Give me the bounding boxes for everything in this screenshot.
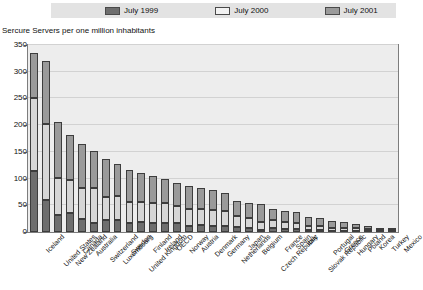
bar-segment[interactable] <box>197 209 205 225</box>
bar-segment[interactable] <box>269 209 277 221</box>
bar-segment[interactable] <box>173 183 181 207</box>
bar-segment[interactable] <box>233 227 241 232</box>
bar-segment[interactable] <box>293 229 301 232</box>
bar-segment[interactable] <box>388 228 396 230</box>
bar-segment[interactable] <box>328 221 336 227</box>
bar-segment[interactable] <box>102 197 110 219</box>
bar-segment[interactable] <box>42 61 50 124</box>
bar-group[interactable] <box>173 45 181 232</box>
bar-segment[interactable] <box>149 176 157 203</box>
bar-segment[interactable] <box>233 216 241 227</box>
bar-group[interactable] <box>149 45 157 232</box>
bar-segment[interactable] <box>149 223 157 232</box>
bar-segment[interactable] <box>102 159 110 197</box>
bar-group[interactable] <box>269 45 277 232</box>
bar-segment[interactable] <box>281 211 289 223</box>
bar-segment[interactable] <box>305 226 313 231</box>
bar-segment[interactable] <box>257 222 265 229</box>
bar-group[interactable] <box>316 45 324 232</box>
bar-segment[interactable] <box>305 217 313 226</box>
bar-segment[interactable] <box>281 229 289 232</box>
bar-group[interactable] <box>388 45 396 232</box>
bar-group[interactable] <box>42 45 50 232</box>
bar-segment[interactable] <box>245 203 253 218</box>
bar-group[interactable] <box>66 45 74 232</box>
bar-group[interactable] <box>197 45 205 232</box>
bar-segment[interactable] <box>245 228 253 232</box>
bar-segment[interactable] <box>257 204 265 222</box>
bar-segment[interactable] <box>66 213 74 232</box>
bar-segment[interactable] <box>233 201 241 216</box>
bar-segment[interactable] <box>114 220 122 232</box>
bar-segment[interactable] <box>209 226 217 232</box>
bar-segment[interactable] <box>352 228 360 231</box>
bar-segment[interactable] <box>30 53 38 98</box>
bar-segment[interactable] <box>54 178 62 215</box>
bar-segment[interactable] <box>126 202 134 223</box>
bar-segment[interactable] <box>54 215 62 232</box>
bar-segment[interactable] <box>173 206 181 223</box>
bar-group[interactable] <box>30 45 38 232</box>
bar-segment[interactable] <box>293 212 301 223</box>
bar-segment[interactable] <box>185 226 193 232</box>
bar-segment[interactable] <box>42 200 50 232</box>
bar-segment[interactable] <box>161 179 169 203</box>
bar-segment[interactable] <box>78 188 86 219</box>
bar-segment[interactable] <box>161 223 169 232</box>
bar-segment[interactable] <box>293 223 301 229</box>
bar-segment[interactable] <box>30 171 38 232</box>
bar-group[interactable] <box>114 45 122 232</box>
bar-segment[interactable] <box>173 223 181 232</box>
bar-segment[interactable] <box>137 173 145 202</box>
bar-segment[interactable] <box>114 196 122 220</box>
bar-group[interactable] <box>245 45 253 232</box>
bar-segment[interactable] <box>340 222 348 227</box>
bar-group[interactable] <box>78 45 86 232</box>
bar-group[interactable] <box>233 45 241 232</box>
bar-group[interactable] <box>257 45 265 232</box>
bar-group[interactable] <box>209 45 217 232</box>
bar-segment[interactable] <box>316 218 324 225</box>
bar-segment[interactable] <box>364 226 372 229</box>
bar-segment[interactable] <box>197 225 205 232</box>
bar-segment[interactable] <box>269 228 277 232</box>
bar-segment[interactable] <box>137 222 145 232</box>
bar-segment[interactable] <box>66 180 74 214</box>
bar-group[interactable] <box>281 45 289 232</box>
bar-segment[interactable] <box>42 124 50 200</box>
bar-group[interactable] <box>137 45 145 232</box>
bar-segment[interactable] <box>149 203 157 223</box>
bar-segment[interactable] <box>185 209 193 226</box>
bar-group[interactable] <box>54 45 62 232</box>
bar-segment[interactable] <box>257 230 265 232</box>
bar-group[interactable] <box>102 45 110 232</box>
bar-segment[interactable] <box>221 211 229 225</box>
bar-segment[interactable] <box>197 188 205 209</box>
bar-segment[interactable] <box>352 224 360 228</box>
bar-group[interactable] <box>293 45 301 232</box>
bar-segment[interactable] <box>209 210 217 225</box>
bar-group[interactable] <box>364 45 372 232</box>
bar-segment[interactable] <box>245 218 253 228</box>
bar-segment[interactable] <box>126 223 134 232</box>
bar-group[interactable] <box>90 45 98 232</box>
bar-segment[interactable] <box>126 170 134 202</box>
bar-segment[interactable] <box>161 203 169 223</box>
bar-group[interactable] <box>185 45 193 232</box>
bar-group[interactable] <box>352 45 360 232</box>
bar-segment[interactable] <box>221 226 229 232</box>
bar-segment[interactable] <box>209 190 217 210</box>
bar-segment[interactable] <box>364 229 372 231</box>
bar-segment[interactable] <box>54 122 62 177</box>
bar-segment[interactable] <box>30 98 38 170</box>
bar-segment[interactable] <box>66 135 74 180</box>
bar-segment[interactable] <box>90 223 98 232</box>
bar-segment[interactable] <box>328 228 336 231</box>
bar-group[interactable] <box>161 45 169 232</box>
bar-segment[interactable] <box>340 228 348 231</box>
bar-segment[interactable] <box>316 226 324 231</box>
bar-group[interactable] <box>305 45 313 232</box>
bar-segment[interactable] <box>114 164 122 196</box>
bar-segment[interactable] <box>269 220 277 228</box>
bar-segment[interactable] <box>221 193 229 211</box>
